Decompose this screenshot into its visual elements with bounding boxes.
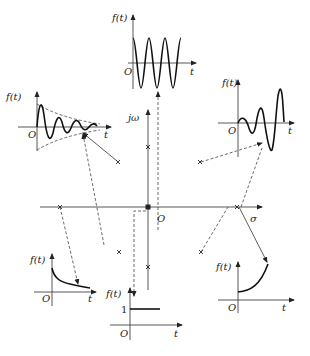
xlabel: t	[190, 66, 195, 77]
pole-origin	[146, 205, 151, 210]
origin: O	[28, 129, 36, 140]
origin: O	[42, 293, 50, 304]
origin: O	[124, 66, 132, 77]
origin: O	[120, 328, 128, 339]
xlabel: t	[104, 129, 109, 140]
plot-lower-right: f(t) t O	[215, 261, 294, 313]
ylabel: f(t)	[221, 77, 238, 88]
ylabel: f(t)	[105, 288, 122, 299]
pole-lhp-lower	[117, 250, 121, 254]
pole-location-diagram: σ jω O f(t) t O	[0, 0, 310, 356]
step-value: 1	[121, 304, 127, 315]
plot-top-center: f(t) t O	[111, 12, 196, 89]
ylabel: f(t)	[215, 261, 232, 272]
ylabel: f(t)	[5, 91, 22, 102]
ylabel: f(t)	[111, 12, 128, 23]
plot-lower-left: f(t) t O	[29, 254, 96, 306]
plot-bottom-center: f(t) t O 1	[105, 288, 182, 340]
plot-upper-left: f(t) t O	[5, 91, 111, 151]
sigma-label: σ	[250, 213, 258, 224]
xlabel: t	[282, 302, 287, 313]
xlabel: t	[88, 293, 93, 304]
jw-label: jω	[126, 112, 139, 123]
xlabel: t	[174, 328, 179, 339]
xlabel: t	[288, 125, 293, 136]
origin: O	[228, 302, 236, 313]
origin: O	[228, 125, 236, 136]
ylabel: f(t)	[29, 254, 46, 265]
